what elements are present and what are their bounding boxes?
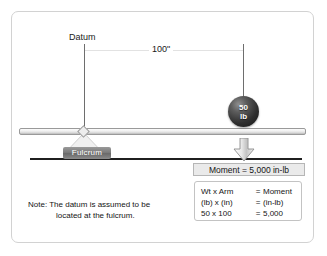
formula-equals: = [253,197,263,208]
formula-box: Wt x Arm = Moment (lb) x (in) = (in-lb) … [194,181,302,221]
datum-leader-line [84,44,85,131]
formula-equals: = [253,186,263,197]
formula-equals: = [253,208,263,219]
moment-result-box: Moment = 5,000 in-lb [193,163,305,176]
formula-right: (in-lb) [263,197,283,208]
weight-sphere: 50 lb [228,96,259,127]
formula-row: (lb) x (in) = (in-lb) [201,197,301,208]
formula-left: Wt x Arm [201,186,253,197]
lever-beam [19,128,306,135]
weight-unit: lb [240,112,247,121]
arm-dimension-label: 100" [149,44,173,55]
fulcrum-label: Fulcrum [63,147,111,159]
weight-sphere-text: 50 lb [228,96,259,127]
weight-value: 50 [239,103,248,112]
formula-left: (lb) x (in) [201,197,253,208]
formula-row: Wt x Arm = Moment [201,186,301,197]
note-line-1: Note: The datum is assumed to be [28,199,188,210]
formula-right: 5,000 [263,208,283,219]
formula-left: 50 x 100 [201,208,253,219]
note-block: Note: The datum is assumed to be located… [28,199,188,221]
note-line-2: located at the fulcrum. [28,210,188,221]
datum-label: Datum [69,32,96,43]
down-arrow-icon [231,138,257,162]
formula-row: 50 x 100 = 5,000 [201,208,301,219]
formula-right: Moment [263,186,292,197]
moment-diagram: Datum 100" 50 lb Fulcrum Moment = 5,000 … [0,0,327,256]
